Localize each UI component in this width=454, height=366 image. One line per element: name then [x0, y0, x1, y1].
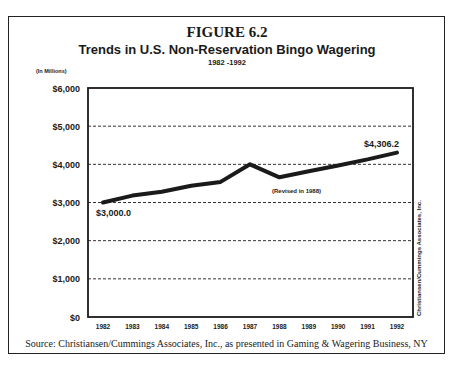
line-chart: $0$1,000$2,000$3,000$4,000$5,000$6,000 1… — [0, 0, 454, 366]
side-credit: Christiansen/Cummings Associates, Inc. — [416, 200, 422, 316]
end-value-annotation: $4,306.2 — [364, 139, 399, 149]
y-tick-label: $4,000 — [52, 160, 80, 170]
gridlines — [88, 126, 413, 279]
x-tick-label: 1986 — [213, 323, 228, 330]
y-tick-label: $6,000 — [52, 84, 80, 94]
x-tick-label: 1987 — [243, 323, 258, 330]
y-tick-label: $5,000 — [52, 122, 80, 132]
x-tick-label: 1992 — [390, 323, 405, 330]
y-tick-label: $1,000 — [52, 274, 80, 284]
x-tick-label: 1990 — [331, 323, 346, 330]
x-axis-ticks: 1982198319841985198619871988198919901991… — [96, 323, 405, 330]
y-tick-label: $3,000 — [52, 198, 80, 208]
x-tick-label: 1982 — [96, 323, 111, 330]
x-tick-label: 1984 — [155, 323, 170, 330]
series-line — [103, 153, 397, 203]
start-value-annotation: $3,000.0 — [96, 208, 131, 218]
y-axis-ticks: $0$1,000$2,000$3,000$4,000$5,000$6,000 — [52, 84, 80, 323]
source-note: Source: Christiansen/Cummings Associates… — [8, 338, 445, 349]
y-tick-label: $2,000 — [52, 236, 80, 246]
x-tick-label: 1988 — [272, 323, 287, 330]
x-tick-label: 1991 — [360, 323, 375, 330]
y-tick-label: $0 — [70, 313, 80, 323]
x-tick-label: 1983 — [125, 323, 140, 330]
revision-note: (Revised in 1988) — [272, 188, 321, 194]
x-tick-label: 1985 — [184, 323, 199, 330]
x-tick-label: 1989 — [302, 323, 317, 330]
